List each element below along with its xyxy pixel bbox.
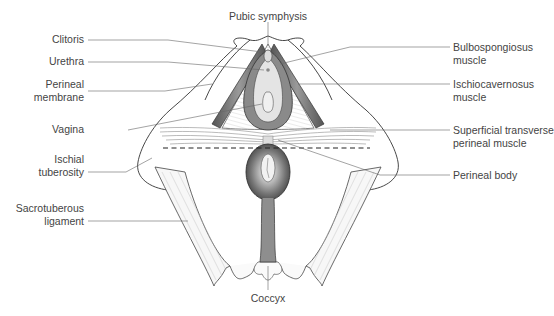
label-perineal-membrane-line2: membrane (0, 91, 84, 104)
label-superficial-transverse-line1: Superficial transverse (453, 124, 554, 137)
anococcygeal-shape (260, 198, 276, 262)
label-ischial-tuberosity-line2: tuberosity (0, 166, 84, 179)
label-ischial-tuberosity-line1: Ischial (0, 153, 84, 166)
label-bulbospongiosus-line1: Bulbospongiosus (453, 41, 533, 54)
clitoris-shape (264, 50, 272, 62)
label-pubic-symphysis: Pubic symphysis (218, 10, 318, 23)
urethra-shape (266, 68, 270, 72)
label-superficial-transverse-line2: perineal muscle (453, 137, 527, 150)
label-ischiocavernosus-line2: muscle (453, 91, 486, 104)
label-ischiocavernosus-line1: Ischiocavernosus (453, 78, 534, 91)
label-clitoris: Clitoris (0, 33, 84, 46)
label-urethra: Urethra (0, 55, 84, 68)
label-coccyx: Coccyx (228, 292, 308, 305)
label-vagina: Vagina (0, 123, 84, 136)
label-bulbospongiosus-line2: muscle (453, 54, 486, 67)
vagina-shape (263, 92, 274, 112)
label-perineal-body: Perineal body (453, 169, 517, 182)
label-sacrotuberous-ligament-line1: Sacrotuberous (0, 202, 84, 215)
label-perineal-membrane-line1: Perineal (0, 78, 84, 91)
label-sacrotuberous-ligament-line2: ligament (0, 215, 84, 228)
